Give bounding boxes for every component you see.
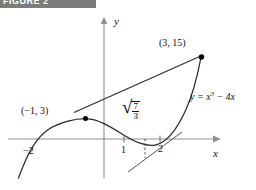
point-dot-right <box>199 54 204 59</box>
tangent-line <box>128 132 182 172</box>
point-label-left: (−1, 3) <box>21 106 48 116</box>
point-label-right: (3, 15) <box>159 38 186 48</box>
cubic-curve <box>18 57 201 178</box>
curve-equation-base: y = x <box>190 91 211 102</box>
x-tick-label-2: 2 <box>158 144 163 154</box>
curve-equation-tail: − 4x <box>214 91 235 102</box>
curve-equation-label: y = x3 − 4x <box>190 92 235 102</box>
y-axis-label: y <box>114 16 119 27</box>
fraction-numerator: 7 <box>132 102 139 111</box>
sqrt-seven-thirds-annotation: √ 7 3 <box>122 99 140 122</box>
x-axis-label: x <box>213 148 218 159</box>
x-tick-label-1: 1 <box>121 145 126 155</box>
figure-root: FIGURE 2 y x (3, 15) (−1 <box>0 0 256 190</box>
point-dot-left <box>83 116 88 121</box>
fraction-denominator: 3 <box>132 111 139 121</box>
fraction-seven-thirds: 7 3 <box>131 101 140 122</box>
x-tick-label-minus2: −2 <box>23 146 34 156</box>
